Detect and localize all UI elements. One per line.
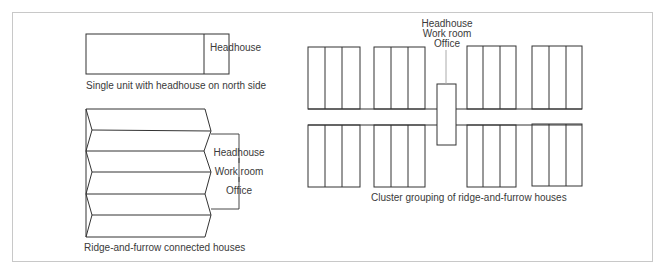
greenhouse-layout-diagram (0, 0, 665, 269)
ridge-and-furrow-caption: Ridge-and-furrow connected houses (84, 242, 245, 253)
single-unit-drawing (86, 34, 229, 74)
ridge-workroom-label: Work room (215, 166, 264, 177)
ridge-office-label: Office (226, 185, 252, 196)
cluster-office-label: Office (434, 39, 460, 49)
cluster-caption: Cluster grouping of ridge-and-furrow hou… (371, 192, 567, 203)
ridge-headhouse-label: Headhouse (213, 147, 264, 158)
single-unit-headhouse-label: Headhouse (210, 42, 261, 53)
cluster-drawing (308, 46, 582, 187)
single-unit-caption: Single unit with headhouse on north side (86, 80, 266, 91)
